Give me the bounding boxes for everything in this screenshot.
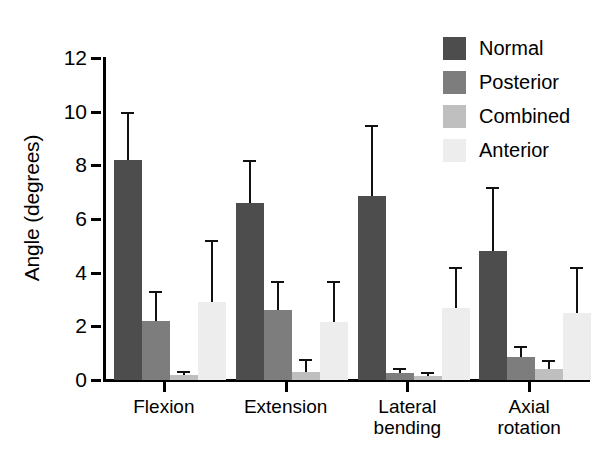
bar: [442, 308, 470, 380]
error-bar-cap: [149, 291, 162, 293]
error-bar-cap: [365, 125, 378, 127]
error-bar-line: [249, 160, 251, 203]
legend-swatch: [443, 105, 466, 128]
legend-item: Anterior: [443, 135, 570, 165]
x-tick-mark: [528, 381, 531, 392]
error-bar-cap: [299, 359, 312, 361]
legend-label: Posterior: [479, 71, 559, 94]
x-tick-mark: [163, 381, 166, 392]
y-tick-mark: [91, 379, 101, 382]
error-bar-line: [155, 291, 157, 321]
error-bar-cap: [421, 372, 434, 374]
error-bar-line: [211, 240, 213, 302]
bar: [320, 322, 348, 380]
error-bar-cap: [121, 112, 134, 114]
error-bar-cap: [271, 281, 284, 283]
bar: [479, 251, 507, 380]
y-tick-label: 10: [64, 100, 87, 124]
y-tick-label: 8: [75, 153, 87, 177]
bar: [170, 375, 198, 380]
legend-label: Anterior: [479, 139, 549, 162]
bar: [114, 160, 142, 380]
bar: [198, 302, 226, 380]
legend-swatch: [443, 37, 466, 60]
bar: [507, 357, 535, 380]
x-tick-label: Axial rotation: [449, 396, 606, 439]
error-bar-line: [576, 267, 578, 313]
y-tick-mark: [91, 57, 101, 60]
y-tick-mark: [91, 325, 101, 328]
legend-label: Combined: [479, 105, 570, 128]
bar: [386, 373, 414, 380]
error-bar-cap: [243, 160, 256, 162]
x-tick-mark: [406, 381, 409, 392]
error-bar-cap: [514, 346, 527, 348]
error-bar-cap: [570, 267, 583, 269]
error-bar-cap: [327, 281, 340, 283]
error-bar-line: [371, 125, 373, 196]
y-tick-label: 6: [75, 207, 87, 231]
error-bar-line: [333, 281, 335, 323]
chart-legend: NormalPosteriorCombinedAnterior: [443, 33, 570, 169]
error-bar-cap: [449, 267, 462, 269]
error-bar-cap: [177, 371, 190, 373]
bar-chart: Angle (degrees) 024681012 FlexionExtensi…: [0, 0, 606, 471]
legend-item: Normal: [443, 33, 570, 63]
y-tick-mark: [91, 111, 101, 114]
legend-swatch: [443, 71, 466, 94]
legend-swatch: [443, 139, 466, 162]
y-axis-label: Angle (degrees): [20, 108, 44, 308]
y-tick-label: 4: [75, 261, 87, 285]
legend-label: Normal: [479, 37, 543, 60]
error-bar-line: [455, 267, 457, 307]
bar: [292, 372, 320, 380]
x-tick-mark: [285, 381, 288, 392]
bar: [142, 321, 170, 380]
error-bar-line: [492, 187, 494, 251]
bar: [563, 313, 591, 380]
error-bar-line: [277, 281, 279, 311]
bar: [535, 369, 563, 380]
y-tick-mark: [91, 164, 101, 167]
bar: [358, 196, 386, 380]
y-tick-label: 12: [64, 46, 87, 70]
error-bar-line: [305, 359, 307, 372]
error-bar-cap: [393, 368, 406, 370]
y-tick-mark: [91, 272, 101, 275]
error-bar-cap: [205, 240, 218, 242]
y-tick-label: 2: [75, 314, 87, 338]
bar: [236, 203, 264, 380]
error-bar-line: [127, 112, 129, 160]
error-bar-cap: [542, 360, 555, 362]
error-bar-cap: [486, 187, 499, 189]
y-tick-mark: [91, 218, 101, 221]
bar: [414, 376, 442, 380]
legend-item: Combined: [443, 101, 570, 131]
bar: [264, 310, 292, 380]
y-tick-label: 0: [75, 368, 87, 392]
legend-item: Posterior: [443, 67, 570, 97]
